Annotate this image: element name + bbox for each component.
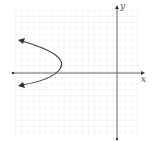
y-axis-arrow-icon [115, 5, 119, 9]
coordinate-graph: x y [0, 0, 153, 141]
x-axis-left-end [12, 72, 14, 74]
x-axis-label: x [141, 74, 146, 84]
y-axis-label: y [119, 1, 126, 11]
y-axis-bottom-end [116, 138, 118, 140]
